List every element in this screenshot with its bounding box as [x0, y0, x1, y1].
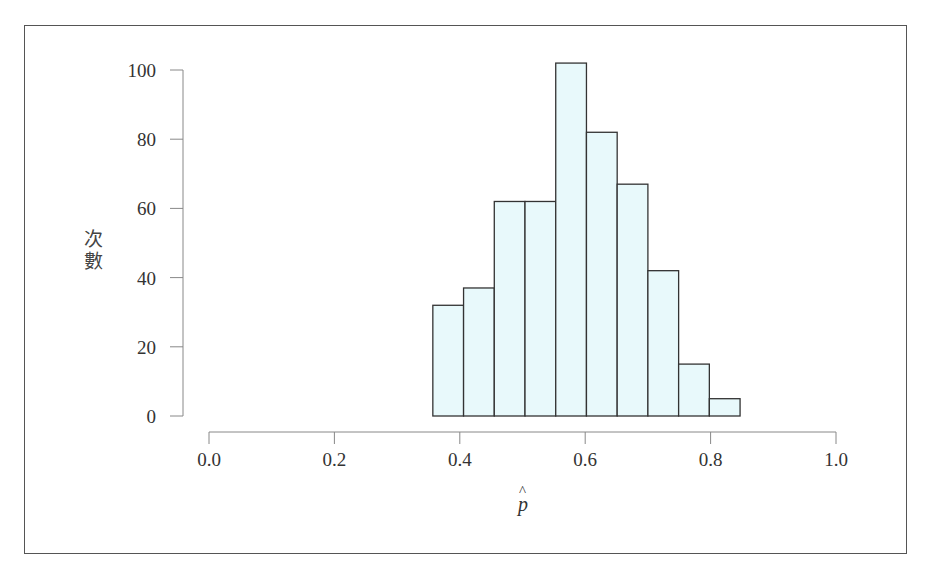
histogram-bar — [556, 63, 587, 416]
histogram-bar — [494, 201, 525, 416]
y-tick-label: 20 — [137, 337, 156, 358]
x-axis-label: p ^ — [516, 483, 528, 516]
x-tick-label: 0.8 — [699, 449, 723, 470]
histogram-bar — [617, 184, 648, 416]
histogram-bar — [586, 132, 617, 416]
histogram-bar — [464, 288, 495, 416]
x-tick-label: 1.0 — [824, 449, 848, 470]
y-tick-label: 0 — [147, 406, 157, 427]
x-tick-label: 0.4 — [448, 449, 472, 470]
y-axis-label-line1: 次 — [84, 228, 103, 250]
y-tick-label: 100 — [128, 60, 157, 81]
histogram-bar — [433, 305, 464, 416]
histogram-chart: 020406080100 0.00.20.40.60.81.0 次 數 p ^ — [0, 0, 929, 584]
x-tick-label: 0.2 — [323, 449, 347, 470]
x-tick-label: 0.0 — [197, 449, 221, 470]
histogram-bar — [679, 364, 710, 416]
x-tick-label: 0.6 — [573, 449, 597, 470]
histogram-bar — [648, 271, 679, 416]
y-tick-label: 80 — [137, 129, 156, 150]
y-axis: 020406080100 — [128, 60, 184, 427]
y-axis-label: 次 數 — [84, 228, 103, 272]
histogram-bar — [525, 201, 556, 416]
y-axis-label-line2: 數 — [84, 250, 103, 272]
x-axis: 0.00.20.40.60.81.0 — [197, 432, 848, 470]
y-tick-label: 60 — [137, 198, 156, 219]
x-axis-label-hat: ^ — [519, 483, 526, 499]
histogram-bars — [433, 63, 740, 416]
histogram-bar — [709, 399, 740, 416]
y-tick-label: 40 — [137, 268, 156, 289]
